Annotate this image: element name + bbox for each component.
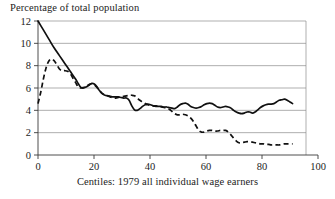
chart-figure: Percentage of total population 024681012…	[0, 0, 335, 199]
x-tick-label-0: 0	[35, 161, 40, 172]
y-tick-label-12: 12	[21, 16, 32, 27]
series-line-dashed-series	[38, 59, 293, 145]
x-tick-label-20: 20	[89, 161, 100, 172]
y-tick-label-10: 10	[21, 38, 32, 49]
x-axis-caption: Centiles: 1979 all individual wage earne…	[0, 176, 335, 187]
y-tick-label-6: 6	[26, 83, 31, 94]
x-tick-label-100: 100	[310, 161, 326, 172]
y-tick-label-2: 2	[26, 127, 31, 138]
y-axis-tick-labels: 024681012	[21, 16, 32, 161]
axis-tickmarks	[34, 21, 318, 159]
x-axis-tick-labels: 020406080100	[35, 161, 326, 172]
y-tick-label-8: 8	[26, 60, 31, 71]
y-tick-label-4: 4	[26, 105, 32, 116]
data-series-group	[38, 21, 293, 145]
y-tick-label-0: 0	[26, 150, 31, 161]
x-tick-label-60: 60	[201, 161, 212, 172]
x-tick-label-40: 40	[145, 161, 156, 172]
x-tick-label-80: 80	[257, 161, 268, 172]
gridlines-group	[38, 43, 306, 132]
series-line-solid-series	[38, 21, 293, 114]
line-chart-plot: 024681012 020406080100	[0, 0, 335, 199]
